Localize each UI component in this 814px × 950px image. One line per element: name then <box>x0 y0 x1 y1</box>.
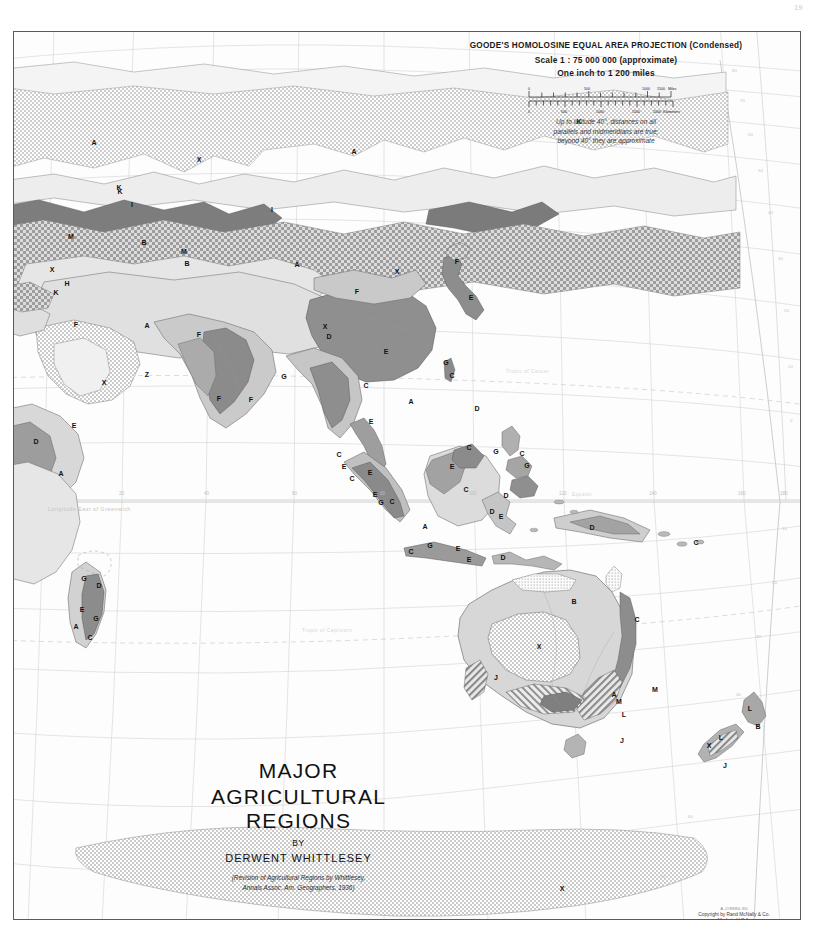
publisher-imprint: A-2/8880-80 Copyright by Rand McNally & … <box>669 906 799 920</box>
svg-text:20: 20 <box>772 580 777 585</box>
region-letter-d: D <box>503 492 508 499</box>
region-letter-a: A <box>294 261 299 268</box>
miles-tick-3: 1500 <box>657 87 665 91</box>
region-letter-g: G <box>443 359 449 366</box>
region-letter-d: D <box>33 438 38 445</box>
region-letter-a: A <box>351 148 356 155</box>
region-letter-c: C <box>87 634 92 641</box>
svg-text:40: 40 <box>736 692 741 697</box>
svg-text:50: 50 <box>758 168 763 173</box>
svg-text:70: 70 <box>660 874 665 879</box>
region-letter-a: A <box>58 470 63 477</box>
made-in-line: Made in U.S.A. <box>669 918 799 920</box>
region-letter-f: F <box>217 395 222 402</box>
region-letter-x: X <box>707 742 712 749</box>
map-credit-line1: (Revision of Agricultural Regions by Whi… <box>156 873 441 883</box>
region-letter-x: X <box>537 643 542 650</box>
svg-text:40: 40 <box>768 210 773 215</box>
svg-text:100: 100 <box>469 491 477 496</box>
miles-tick-0: 0 <box>528 87 530 91</box>
miles-tick-1: 500 <box>584 87 590 91</box>
region-letter-e: E <box>456 545 461 552</box>
svg-text:30: 30 <box>778 256 783 261</box>
region-letter-j: J <box>723 762 727 769</box>
region-letter-d: D <box>474 405 479 412</box>
scale-bar-kilometers <box>529 101 673 107</box>
svg-text:120: 120 <box>559 491 567 496</box>
km-tick-1: 500 <box>561 110 567 114</box>
tropic-cancer-label: Tropic of Cancer <box>506 369 549 374</box>
region-letter-f: F <box>197 331 202 338</box>
region-letter-a: A <box>408 398 413 405</box>
map-title-block: MAJOR AGRICULTURAL REGIONS BY DERWENT WH… <box>156 759 441 894</box>
region-letter-e: E <box>373 491 378 498</box>
region-letter-e: E <box>80 606 85 613</box>
region-letter-c: C <box>363 382 368 389</box>
region-letter-e: E <box>450 463 455 470</box>
svg-text:50: 50 <box>714 752 719 757</box>
map-credit: (Revision of Agricultural Regions by Whi… <box>156 873 441 894</box>
svg-text:60: 60 <box>292 491 298 496</box>
region-letter-f: F <box>355 288 360 295</box>
region-letter-g: G <box>493 448 499 455</box>
region-letter-m: M <box>652 686 658 693</box>
region-letter-f: F <box>74 321 79 328</box>
region-letter-m: M <box>616 698 622 705</box>
region-letter-k: K <box>53 289 58 296</box>
region-letter-g: G <box>427 542 433 549</box>
svg-text:60: 60 <box>688 814 693 819</box>
scale-bar-miles <box>529 91 671 97</box>
region-letter-b: B <box>184 260 189 267</box>
region-letter-m: M <box>181 248 187 255</box>
region-letter-g: G <box>281 373 287 380</box>
region-letter-d: D <box>500 554 505 561</box>
projection-legend: GOODE'S HOMOLOSINE EQUAL AREA PROJECTION… <box>456 41 756 146</box>
region-letter-c: C <box>519 450 524 457</box>
svg-text:160: 160 <box>738 491 746 496</box>
svg-text:80: 80 <box>380 491 386 496</box>
region-letter-c: C <box>634 616 639 623</box>
page-number: 19 <box>794 4 803 11</box>
region-letter-l: L <box>748 705 753 712</box>
svg-text:30: 30 <box>756 634 761 639</box>
region-letter-l: L <box>622 711 627 718</box>
projection-note-line1: Up to latitude 40°, distances on all <box>456 117 756 127</box>
km-tick-3: 1500 <box>632 110 640 114</box>
projection-note: Up to latitude 40°, distances on all par… <box>456 117 756 146</box>
region-letter-e: E <box>342 463 347 470</box>
region-letter-h: H <box>64 280 69 287</box>
svg-text:10: 10 <box>788 364 793 369</box>
region-letter-z: Z <box>145 371 150 378</box>
map-page: 19 <box>0 0 814 950</box>
region-letter-d: D <box>96 582 101 589</box>
region-letter-a: A <box>91 139 96 146</box>
region-letter-x: X <box>102 379 107 386</box>
region-letter-c: C <box>693 539 698 546</box>
region-letter-l: L <box>719 734 724 741</box>
svg-text:180: 180 <box>780 491 788 496</box>
region-letter-k: K <box>117 188 122 195</box>
projection-note-line2: parallels and midmeridians are true; <box>456 127 756 137</box>
region-letter-b: B <box>571 598 576 605</box>
map-credit-line2: Annals Assoc. Am. Geographers, 1936) <box>156 883 441 893</box>
region-letter-c: C <box>466 444 471 451</box>
region-letter-g: G <box>81 575 87 582</box>
region-letter-c: C <box>463 486 468 493</box>
region-letter-m: M <box>68 233 74 240</box>
map-title-line1: MAJOR <box>156 759 441 783</box>
region-letter-e: E <box>369 418 374 425</box>
region-letter-f: F <box>455 258 460 265</box>
scale-inch: One inch to 1 200 miles <box>456 68 756 78</box>
region-letter-i: I <box>131 201 133 208</box>
region-letter-f: F <box>249 396 254 403</box>
region-letter-g: G <box>93 615 99 622</box>
plate-code: A-2/8880-80 <box>669 906 799 911</box>
region-letter-d: D <box>589 524 594 531</box>
region-letter-c: C <box>408 548 413 555</box>
region-letter-d: D <box>326 333 331 340</box>
region-letter-d: D <box>489 508 494 515</box>
scale-bar: 0 500 1000 1500 Miles 0 500 1000 1500 20… <box>521 83 691 113</box>
region-letter-x: X <box>197 156 202 163</box>
km-tick-0: 0 <box>528 110 530 114</box>
miles-tick-2: 1000 <box>642 87 650 91</box>
